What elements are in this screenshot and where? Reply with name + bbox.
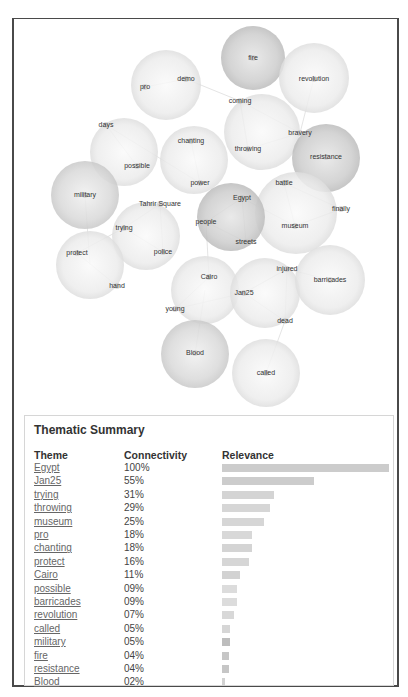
relevance-bar [222, 531, 252, 539]
connectivity-value: 04% [124, 650, 144, 661]
table-row: protect16% [25, 556, 393, 569]
table-row: Blood02% [25, 676, 393, 689]
concept-label[interactable]: chanting [178, 137, 205, 145]
theme-link[interactable]: revolution [34, 609, 77, 620]
concept-label[interactable]: coming [229, 97, 252, 105]
connectivity-value: 29% [124, 502, 144, 513]
concept-label[interactable]: throwing [235, 145, 262, 153]
concept-label[interactable]: fire [248, 54, 258, 61]
connectivity-value: 09% [124, 596, 144, 607]
concept-label[interactable]: pro [140, 83, 150, 91]
relevance-bar [222, 544, 252, 552]
header-theme: Theme [34, 449, 68, 461]
relevance-bar [222, 652, 229, 660]
relevance-bar [222, 611, 234, 619]
concept-label[interactable]: Egypt [233, 194, 251, 202]
table-row: pro18% [25, 529, 393, 542]
table-row: chanting18% [25, 542, 393, 555]
relevance-bar [222, 558, 249, 566]
concept-label[interactable]: power [190, 179, 210, 187]
table-row: barricades09% [25, 596, 393, 609]
connectivity-value: 04% [124, 663, 144, 674]
table-row: Egypt100% [25, 462, 393, 475]
connectivity-value: 18% [124, 529, 144, 540]
theme-link[interactable]: museum [34, 516, 72, 527]
concept-label[interactable]: Blood [186, 349, 204, 356]
bubble-battle-museum[interactable] [255, 172, 337, 254]
concept-label[interactable]: Cairo [201, 273, 218, 280]
theme-link[interactable]: resistance [34, 663, 80, 674]
concept-label[interactable]: dead [277, 317, 293, 324]
concept-label[interactable]: Jan25 [234, 289, 253, 296]
bubble-group [51, 26, 365, 407]
theme-link[interactable]: throwing [34, 502, 72, 513]
relevance-bar [222, 598, 237, 606]
concept-label[interactable]: battle [275, 179, 292, 186]
concept-label[interactable]: barricades [314, 276, 347, 283]
concept-label[interactable]: streets [235, 238, 257, 245]
concept-label[interactable]: Tahrir Square [139, 200, 181, 208]
concept-label[interactable]: resistance [310, 153, 342, 160]
connectivity-value: 100% [124, 462, 150, 473]
connectivity-value: 05% [124, 623, 144, 634]
table-row: fire04% [25, 650, 393, 663]
concept-label[interactable]: finally [332, 205, 350, 213]
connectivity-value: 25% [124, 516, 144, 527]
concept-label[interactable]: revolution [299, 75, 329, 82]
theme-link[interactable]: barricades [34, 596, 81, 607]
bubble-cairo-young[interactable] [171, 256, 239, 324]
concept-label[interactable]: young [165, 305, 184, 313]
theme-link[interactable]: Egypt [34, 462, 60, 473]
relevance-bar [222, 491, 274, 499]
relevance-bar [222, 678, 225, 686]
theme-link[interactable]: called [34, 623, 60, 634]
theme-link[interactable]: possible [34, 583, 71, 594]
table-row: possible09% [25, 583, 393, 596]
theme-link[interactable]: pro [34, 529, 48, 540]
relevance-bar [222, 585, 237, 593]
bubble-network-chart: firerevolutiondemoprocomingthrowingbrave… [0, 0, 408, 412]
theme-link[interactable]: Blood [34, 676, 60, 687]
connectivity-value: 16% [124, 556, 144, 567]
concept-label[interactable]: people [195, 218, 216, 226]
connectivity-value: 18% [124, 542, 144, 553]
relevance-bar [222, 665, 229, 673]
concept-label[interactable]: hand [109, 282, 125, 289]
concept-label[interactable]: days [99, 121, 114, 129]
relevance-bar [222, 518, 264, 526]
connectivity-value: 09% [124, 583, 144, 594]
theme-link[interactable]: Cairo [34, 569, 58, 580]
concept-label[interactable]: police [154, 248, 172, 256]
table-row: resistance04% [25, 663, 393, 676]
connectivity-value: 31% [124, 489, 144, 500]
concept-label[interactable]: military [74, 191, 97, 199]
table-row: trying31% [25, 489, 393, 502]
connectivity-value: 02% [124, 676, 144, 687]
header-relevance: Relevance [222, 449, 274, 461]
connectivity-value: 55% [124, 475, 144, 486]
theme-link[interactable]: trying [34, 489, 58, 500]
table-row: Cairo11% [25, 569, 393, 582]
theme-link[interactable]: military [34, 636, 66, 647]
theme-link[interactable]: fire [34, 650, 48, 661]
table-row: called05% [25, 623, 393, 636]
theme-link[interactable]: protect [34, 556, 65, 567]
theme-link[interactable]: chanting [34, 542, 72, 553]
table-row: Jan2555% [25, 475, 393, 488]
relevance-bar [222, 625, 230, 633]
theme-link[interactable]: Jan25 [34, 475, 61, 486]
table-row: military05% [25, 636, 393, 649]
header-connectivity: Connectivity [124, 449, 187, 461]
concept-label[interactable]: bravery [288, 129, 312, 137]
concept-label[interactable]: demo [177, 75, 195, 82]
thematic-summary-panel: Thematic Summary Theme Connectivity Rele… [24, 415, 394, 686]
concept-label[interactable]: injured [276, 265, 297, 273]
relevance-bar [222, 477, 314, 485]
concept-label[interactable]: possible [124, 162, 150, 170]
concept-label[interactable]: museum [282, 222, 309, 229]
summary-title: Thematic Summary [34, 423, 145, 437]
concept-label[interactable]: trying [115, 224, 132, 232]
concept-label[interactable]: protect [66, 249, 87, 257]
concept-label[interactable]: called [257, 369, 275, 376]
relevance-bar [222, 504, 270, 512]
